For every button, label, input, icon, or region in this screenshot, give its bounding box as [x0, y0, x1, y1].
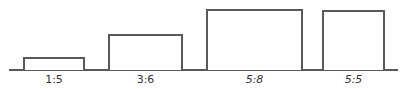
label-5-5: 5:5	[322, 74, 385, 86]
rectangle-5-8	[206, 9, 303, 70]
rectangle-5-5	[322, 10, 385, 70]
label-1-5: 1:5	[23, 74, 85, 86]
label-3-6: 3:6	[108, 74, 183, 86]
label-5-8: 5:8	[206, 74, 303, 86]
rectangle-1-5	[23, 57, 85, 70]
rectangle-3-6	[108, 34, 183, 70]
